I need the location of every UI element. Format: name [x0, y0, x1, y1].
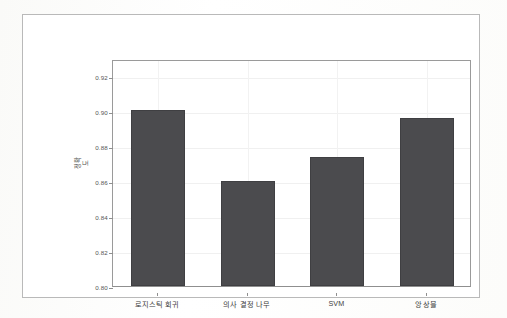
y-axis-tick-mark: [109, 148, 113, 149]
y-axis-tick-mark: [109, 253, 113, 254]
bar-1: [131, 110, 185, 286]
x-axis-tick-mark: [157, 293, 158, 296]
y-axis-tick-label: 0.80: [95, 284, 108, 291]
y-axis-tick-label: 0.84: [95, 214, 108, 221]
bar-4: [400, 118, 454, 286]
screenshot-root: 정확도 0.920.900.880.860.840.820.80 로지스틱 회귀…: [0, 0, 507, 318]
y-axis-tick-mark: [109, 218, 113, 219]
y-axis-tick-label: 0.92: [95, 74, 108, 81]
y-axis-tick-label: 0.86: [95, 179, 108, 186]
bar-2: [221, 181, 275, 286]
x-axis-tick-label-4: 앙상블: [415, 299, 436, 309]
plot-area: [112, 60, 471, 287]
x-axis-tick-labels: 로지스틱 회귀의사 결정 나무SVM앙상블: [112, 293, 471, 307]
x-axis-tick-label-1: 로지스틱 회귀: [135, 299, 180, 309]
y-axis-tick-label: 0.82: [95, 249, 108, 256]
y-axis-tick-mark: [109, 113, 113, 114]
y-axis-tick-mark: [109, 183, 113, 184]
figure-frame: 정확도 0.920.900.880.860.840.820.80 로지스틱 회귀…: [22, 14, 480, 298]
x-axis-tick-label-2: 의사 결정 나무: [223, 299, 270, 309]
y-axis-tick-label: 0.88: [95, 144, 108, 151]
y-axis-tick-labels: 0.920.900.880.860.840.820.80: [83, 60, 108, 287]
y-axis-tick-mark: [109, 78, 113, 79]
x-axis-tick-label-3: SVM: [328, 299, 344, 308]
x-axis-tick-mark: [247, 293, 248, 296]
bar-3: [310, 157, 364, 286]
x-axis-tick-mark: [336, 293, 337, 296]
x-axis-tick-mark: [426, 293, 427, 296]
y-axis-tick-label: 0.90: [95, 109, 108, 116]
gridline-horizontal: [113, 78, 470, 79]
y-axis-tick-mark: [109, 288, 113, 289]
